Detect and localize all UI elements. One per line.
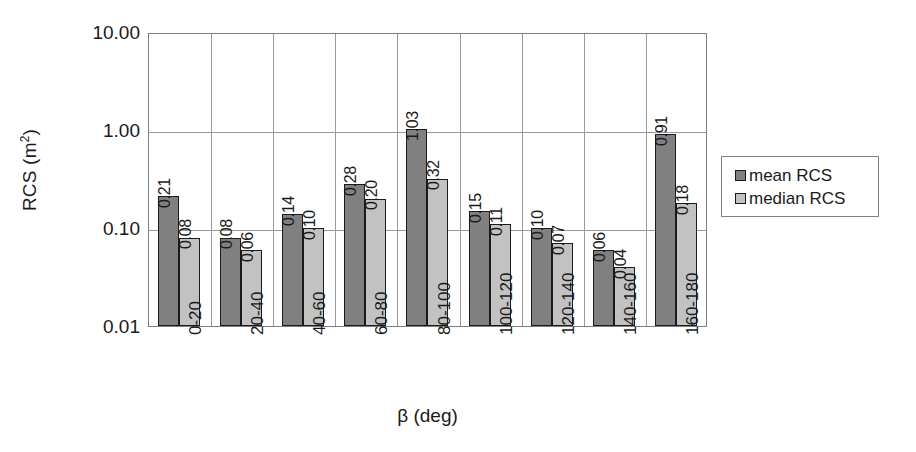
bar-group: 0.210.08 bbox=[149, 34, 211, 326]
bar-value-label: 1.03 bbox=[405, 111, 421, 141]
legend-item[interactable]: median RCS bbox=[735, 187, 878, 210]
legend-item-label: mean RCS bbox=[749, 166, 832, 186]
x-axis-tick-label: 20-40 bbox=[249, 292, 266, 335]
bar-group: 0.080.06 bbox=[211, 34, 273, 326]
bar-value-label: 0.20 bbox=[364, 181, 380, 211]
bar-mean[interactable] bbox=[469, 211, 490, 326]
x-axis-tick-label: 160-180 bbox=[684, 273, 701, 335]
bar-value-label: 0.18 bbox=[675, 185, 691, 215]
bar-value-label: 0.10 bbox=[530, 210, 546, 240]
bar-value-label: 0.15 bbox=[468, 193, 484, 223]
bar-mean[interactable] bbox=[158, 196, 179, 326]
y-axis-title-text: RCS (m bbox=[19, 142, 40, 211]
bar-value-label: 0.21 bbox=[157, 178, 173, 208]
y-axis-title-close-paren: ) bbox=[19, 129, 40, 136]
bar-value-label: 0.11 bbox=[489, 207, 505, 236]
x-axis-tick-label: 120-140 bbox=[560, 273, 577, 335]
legend-item-label: median RCS bbox=[749, 189, 845, 209]
bar-value-label: 0.28 bbox=[343, 166, 359, 196]
bar-chart: RCS (m2) 10.001.000.100.01 0.210.080.080… bbox=[0, 0, 916, 452]
legend: mean RCSmedian RCS bbox=[721, 156, 879, 217]
bar-value-label: 0.10 bbox=[302, 210, 318, 240]
y-axis-title: RCS (m2) bbox=[18, 90, 48, 250]
bar-value-label: 0.07 bbox=[551, 225, 567, 255]
x-axis-tick-label: 60-80 bbox=[373, 292, 390, 335]
x-axis-tick-label: 80-100 bbox=[436, 282, 453, 335]
bar-mean[interactable] bbox=[655, 134, 676, 326]
x-axis-tick-label: 40-60 bbox=[311, 292, 328, 335]
bar-value-label: 0.91 bbox=[654, 116, 670, 146]
x-axis-tick-label: 0-20 bbox=[187, 301, 204, 335]
y-axis-tick-label: 0.01 bbox=[60, 317, 140, 336]
x-axis-tick-label: 100-120 bbox=[498, 273, 515, 335]
bar-group: 0.140.10 bbox=[273, 34, 335, 326]
y-axis-tick-label: 10.00 bbox=[60, 23, 140, 42]
bar-value-label: 0.08 bbox=[219, 220, 235, 250]
bar-value-label: 0.08 bbox=[178, 220, 194, 250]
x-axis-tick-label: 140-160 bbox=[622, 273, 639, 335]
x-axis-title: β (deg) bbox=[148, 405, 707, 427]
bar-value-label: 0.06 bbox=[240, 232, 256, 262]
legend-swatch-icon bbox=[735, 170, 746, 181]
legend-item[interactable]: mean RCS bbox=[735, 164, 878, 187]
bar-group: 0.280.20 bbox=[335, 34, 397, 326]
bar-value-label: 0.06 bbox=[592, 232, 608, 262]
legend-swatch-icon bbox=[735, 193, 746, 204]
bar-mean[interactable] bbox=[406, 129, 427, 326]
bar-mean[interactable] bbox=[531, 228, 552, 326]
y-axis-tick-label: 1.00 bbox=[60, 121, 140, 140]
y-axis-tick-label: 0.10 bbox=[60, 219, 140, 238]
bar-value-label: 0.32 bbox=[426, 161, 442, 191]
bar-mean[interactable] bbox=[220, 238, 241, 327]
bar-value-label: 0.14 bbox=[281, 196, 297, 226]
y-axis-tick-labels: 10.001.000.100.01 bbox=[52, 0, 140, 452]
y-axis-title-superscript: 2 bbox=[18, 135, 32, 142]
